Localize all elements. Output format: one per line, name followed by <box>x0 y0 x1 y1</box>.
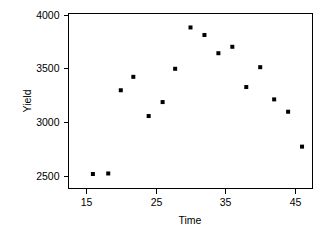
data-point <box>147 114 151 118</box>
data-point <box>91 172 95 176</box>
y-axis-title: Yield <box>21 89 33 112</box>
data-point <box>202 33 206 37</box>
data-point <box>173 67 177 71</box>
x-tick-label: 15 <box>81 196 93 208</box>
data-point <box>230 45 234 49</box>
y-tick-label: 2500 <box>36 170 60 182</box>
x-axis-title: Time <box>179 214 202 226</box>
data-point <box>286 110 290 114</box>
x-tick-label: 35 <box>220 196 232 208</box>
data-point <box>161 100 165 104</box>
data-point <box>189 25 193 29</box>
x-tick-label: 45 <box>290 196 302 208</box>
y-tick-label: 3500 <box>36 62 60 74</box>
x-tick-label: 25 <box>151 196 163 208</box>
y-tick-label: 3000 <box>36 116 60 128</box>
scatter-plot-figure: 2500300035004000 15253545 Yield Time <box>0 0 332 234</box>
data-point <box>258 65 262 69</box>
data-point <box>216 51 220 55</box>
plot-canvas: 2500300035004000 15253545 Yield Time <box>0 0 332 234</box>
data-point <box>272 97 276 101</box>
y-tick-label: 4000 <box>36 9 60 21</box>
data-point <box>131 75 135 79</box>
data-point <box>244 85 248 89</box>
data-point <box>119 88 123 92</box>
data-point <box>106 171 110 175</box>
data-point <box>300 145 304 149</box>
